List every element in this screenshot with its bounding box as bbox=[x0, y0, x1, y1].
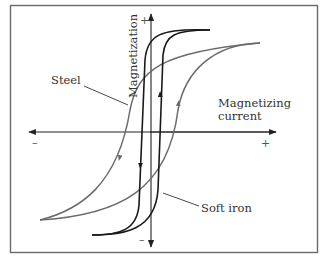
y-axis-label: Magnetization bbox=[126, 13, 140, 98]
diagram-canvas: Steel Soft iron Magnetizing current Magn… bbox=[0, 0, 323, 259]
x-axis-label-line2: current bbox=[218, 109, 262, 123]
steel-arrow-down bbox=[120, 152, 122, 158]
steel-leader-line bbox=[84, 86, 128, 105]
x-axis-positive-sign: + bbox=[261, 137, 270, 150]
y-axis-positive-sign: + bbox=[140, 14, 149, 27]
hysteresis-diagram: Steel Soft iron Magnetizing current Magn… bbox=[0, 0, 323, 259]
soft-iron-label: Soft iron bbox=[201, 201, 252, 215]
x-axis-label-line1: Magnetizing bbox=[218, 96, 292, 110]
x-axis-negative-sign: – bbox=[32, 136, 38, 149]
soft-iron-leader-line bbox=[163, 193, 199, 206]
steel-label: Steel bbox=[51, 73, 81, 87]
y-axis-negative-sign: – bbox=[139, 233, 145, 246]
